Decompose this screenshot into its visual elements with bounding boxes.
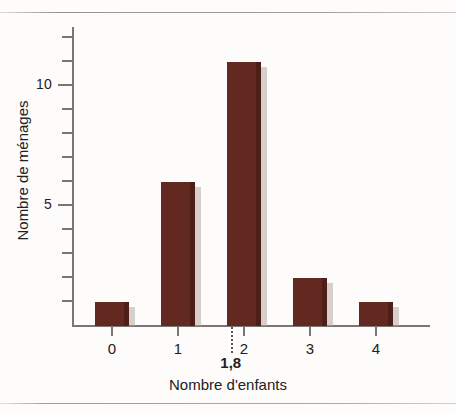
mean-marker-label: 1,8 [201,354,261,371]
top-divider-rule [0,12,456,13]
y-axis-minor-tick [62,180,72,182]
bar [359,302,393,326]
x-axis-tick-label: 1 [158,340,198,357]
y-axis-minor-tick [62,108,72,110]
y-axis-major-tick [58,204,72,206]
bottom-divider-rule [0,403,456,404]
y-axis-title: Nombre de ménages [14,71,31,271]
bar-chart: 105 01234 1,8 Nombre d'enfants Nombre de… [0,14,456,402]
bar [227,62,261,326]
bar [95,302,129,326]
y-axis-minor-tick [62,300,72,302]
y-axis-minor-tick [62,276,72,278]
x-axis-tick [111,327,113,336]
x-axis-tick [375,327,377,336]
y-axis-minor-tick [62,156,72,158]
y-axis-minor-tick [62,36,72,38]
y-axis-minor-tick [62,132,72,134]
x-axis-tick-label: 0 [92,340,132,357]
bar [293,278,327,326]
y-axis-major-tick [58,84,72,86]
page-canvas: 105 01234 1,8 Nombre d'enfants Nombre de… [0,0,456,413]
x-axis-tick [309,327,311,336]
x-axis-tick-label: 4 [356,340,396,357]
mean-marker-line [231,327,233,353]
x-axis-tick [177,327,179,336]
y-axis-minor-tick [62,60,72,62]
x-axis-title: Nombre d'enfants [0,376,456,393]
y-axis-minor-tick [62,252,72,254]
x-axis-tick [243,327,245,336]
y-axis-line [72,27,74,327]
bar [161,182,195,326]
y-axis-minor-tick [62,228,72,230]
x-axis-tick-label: 3 [290,340,330,357]
